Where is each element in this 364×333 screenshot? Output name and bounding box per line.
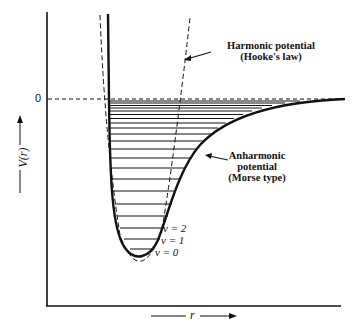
anharmonic-label-line1: Anharmonic	[222, 150, 292, 161]
anharmonic-arrowhead	[205, 153, 212, 159]
y-axis-label: V(r)	[16, 113, 31, 203]
harmonic-label-line2: (Hooke's law)	[206, 51, 336, 62]
anharmonic-label: Anharmonic potential (Morse type)	[222, 150, 292, 183]
level-label-v2: v = 2	[163, 222, 186, 234]
harmonic-label-line1: Harmonic potential	[206, 40, 336, 51]
harmonic-arrowhead	[184, 55, 191, 61]
level-label-v0: v = 0	[155, 246, 178, 258]
anharmonic-label-line3: (Morse type)	[222, 172, 292, 183]
level-label-v1: v = 1	[161, 234, 184, 246]
x-arrowhead-icon	[229, 313, 237, 319]
zero-label: 0	[35, 92, 41, 104]
x-axis-label: r	[190, 308, 195, 323]
harmonic-label: Harmonic potential (Hooke's law)	[206, 40, 336, 62]
anharmonic-label-line2: potential	[222, 161, 292, 172]
